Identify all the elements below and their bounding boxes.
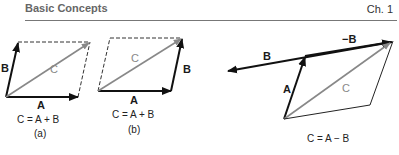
label-b: B: [183, 63, 191, 75]
dashed-edge-left: [98, 38, 110, 91]
label-c: C: [50, 63, 58, 75]
label-c: C: [342, 82, 350, 94]
vector-b-arrow: [171, 39, 182, 91]
label-b: B: [263, 50, 271, 62]
label-neg-b: −B: [342, 33, 356, 45]
label-a: A: [130, 94, 138, 106]
label-b: B: [1, 62, 9, 74]
equation-a: C = A + B: [17, 114, 60, 125]
equation-c: C = A − B: [307, 133, 350, 144]
figure-b: C B A C = A + B (b): [98, 38, 191, 135]
label-a: A: [37, 99, 45, 111]
vector-c-arrow: [284, 43, 390, 119]
vector-diagrams: B C A C = A + B (a) C B A C = A + B (b) …: [0, 0, 399, 155]
label-c: C: [131, 52, 139, 64]
figure-a: B C A C = A + B (a): [1, 42, 90, 139]
caption-a: (a): [34, 128, 46, 139]
caption-b: (b): [128, 124, 140, 135]
figure-c: −B B A C C = A − B: [226, 33, 393, 144]
dashed-edge-right: [78, 42, 90, 97]
equation-b: C = A + B: [112, 109, 155, 120]
vector-c-arrow: [6, 43, 89, 97]
vector-c-arrow: [98, 39, 181, 91]
label-a: A: [283, 83, 291, 95]
